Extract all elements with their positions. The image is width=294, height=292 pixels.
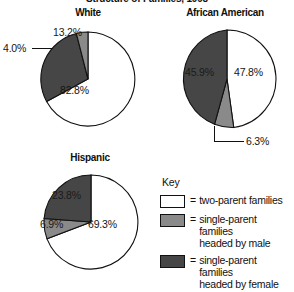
legend-equals-sign-1: = [190,194,196,206]
slice-label-hispanic-two-parent: 69.3% [88,218,117,230]
leader-line-white-single-male [32,48,53,49]
slice-label-white-single-female: 13.2% [53,26,82,38]
leader-line-aa-single-male-vertical [214,126,215,142]
slice-label-white-two-parent: 82.8% [60,84,89,96]
pie-chart-white [40,31,136,127]
chart-title-hispanic: Hispanic [40,152,140,163]
slice-aa-two-parent [227,30,276,128]
pie-chart-african-american [177,29,277,129]
legend-item-single-male: = single-parent families headed by male [160,213,292,249]
slice-label-white-single-male: 4.0% [3,42,26,54]
legend-item-two-parent: = two-parent families [160,194,292,208]
pie-chart-african-american-svg [177,29,277,129]
slice-label-aa-two-parent: 47.8% [234,66,263,78]
slice-label-hispanic-single-female: 23.8% [52,189,81,201]
leader-line-aa-single-male-horizontal [214,141,244,142]
legend-label-single-female: single-parent families headed by female [199,254,292,290]
single-parent-male-swatch [160,214,185,227]
legend-heading: Key [162,176,292,188]
pie-chart-white-svg [40,31,136,127]
chart-title-african-american: African American [160,7,290,18]
chart-title-white: White [38,7,138,18]
legend-equals-sign-3: = [190,254,196,266]
two-parent-swatch [160,195,185,208]
legend-equals-sign-2: = [190,213,196,225]
legend-item-single-female: = single-parent families headed by femal… [160,254,292,290]
figure-title: Structure of Families, 1998 [0,0,294,4]
figure-canvas: Structure of Families, 1998 White 82.8% … [0,0,294,292]
legend-label-single-male: single-parent families headed by male [199,213,292,249]
slice-label-aa-single-male: 6.3% [246,135,269,147]
slice-label-aa-single-female: 45.9% [185,66,214,78]
single-parent-female-swatch [160,255,185,268]
legend-label-two-parent: two-parent families [199,194,282,206]
slice-label-hispanic-single-male: 6.9% [40,218,63,230]
legend-key: Key = two-parent families = single-paren… [160,176,292,292]
